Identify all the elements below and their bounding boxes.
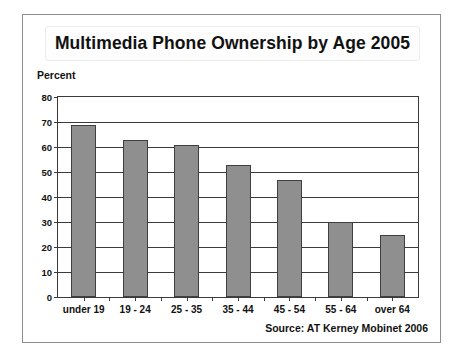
x-tick-label: under 19 [63, 304, 105, 315]
bar [226, 165, 251, 298]
x-tick-label: 25 - 35 [171, 304, 202, 315]
gridline [58, 122, 418, 123]
x-tick-mark [341, 297, 342, 301]
x-tick-label: over 64 [375, 304, 410, 315]
y-tick-mark [54, 197, 58, 198]
x-tick-mark [84, 297, 85, 301]
bar [123, 140, 148, 298]
y-tick-label: 30 [41, 217, 52, 228]
y-tick-label: 60 [41, 142, 52, 153]
y-tick-label: 10 [41, 267, 52, 278]
y-tick-label: 70 [41, 117, 52, 128]
x-tick-label: 55 - 64 [325, 304, 356, 315]
y-tick-mark [54, 222, 58, 223]
x-tick-mark [212, 297, 213, 301]
bar [380, 235, 405, 298]
chart-figure: Multimedia Phone Ownership by Age 2005 P… [22, 14, 441, 343]
gridline [58, 147, 418, 148]
x-tick-mark [392, 297, 393, 301]
x-tick-mark [238, 297, 239, 301]
x-tick-label: 35 - 44 [222, 304, 253, 315]
bar [71, 125, 96, 298]
chart-title-box: Multimedia Phone Ownership by Age 2005 [45, 26, 420, 61]
bar [277, 180, 302, 298]
x-tick-mark [315, 297, 316, 301]
plot-area: 01020304050607080under 1919 - 2425 - 353… [57, 96, 419, 298]
x-tick-mark [264, 297, 265, 301]
y-tick-mark [54, 147, 58, 148]
y-tick-label: 0 [47, 292, 52, 303]
source-note: Source: AT Kerney Mobinet 2006 [265, 322, 428, 334]
x-tick-label: 45 - 54 [274, 304, 305, 315]
y-axis-title: Percent [37, 69, 76, 81]
y-tick-mark [54, 247, 58, 248]
y-tick-mark [54, 297, 58, 298]
y-tick-mark [54, 172, 58, 173]
bar [328, 222, 353, 297]
x-tick-mark [109, 297, 110, 301]
x-tick-mark [135, 297, 136, 301]
y-tick-label: 40 [41, 192, 52, 203]
x-tick-mark [289, 297, 290, 301]
y-tick-mark [54, 122, 58, 123]
x-tick-mark [161, 297, 162, 301]
x-tick-mark [187, 297, 188, 301]
bar [174, 145, 199, 298]
y-tick-label: 50 [41, 167, 52, 178]
y-tick-label: 20 [41, 242, 52, 253]
y-tick-mark [54, 97, 58, 98]
y-tick-label: 80 [41, 92, 52, 103]
x-tick-label: 19 - 24 [120, 304, 151, 315]
chart-title: Multimedia Phone Ownership by Age 2005 [55, 33, 410, 54]
y-tick-mark [54, 272, 58, 273]
x-tick-mark [367, 297, 368, 301]
